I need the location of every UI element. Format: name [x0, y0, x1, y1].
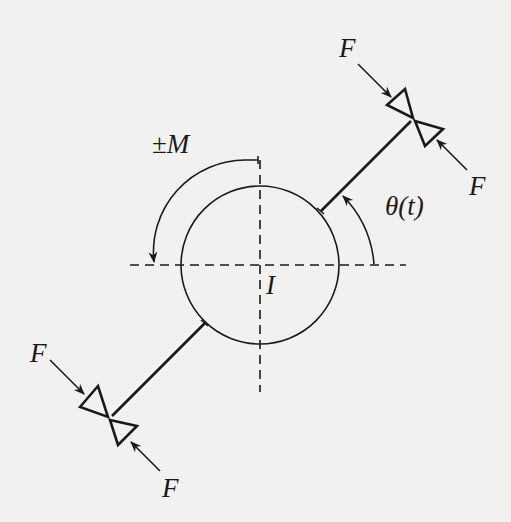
angle-arrow — [343, 196, 374, 264]
moment-label: ±M — [152, 129, 191, 159]
force-arrow-bottom-upper — [50, 360, 84, 394]
clamp-bottom-lower-jaw — [110, 420, 137, 445]
clamp-top-upper-jaw — [387, 89, 413, 118]
moment-arc — [153, 160, 258, 262]
inertia-label: I — [265, 270, 277, 300]
clamp-bottom — [80, 386, 137, 445]
force-label-top-upper: F — [338, 33, 356, 63]
force-label-top-lower: F — [468, 171, 486, 201]
angle-label: θ(t) — [385, 191, 424, 221]
arm — [112, 121, 411, 416]
moment-arrow — [153, 156, 258, 262]
force-label-bottom-upper: F — [29, 338, 47, 368]
force-arrow-top-lower — [437, 140, 467, 170]
force-arrow-top-upper — [358, 64, 391, 97]
clamp-bottom-upper-jaw — [80, 386, 108, 417]
force-arrows — [50, 64, 467, 471]
force-arrow-bottom-lower — [131, 442, 160, 471]
rotor-diagram: ±M I θ(t) F F F F — [0, 0, 511, 522]
arm-lower — [112, 323, 205, 416]
force-label-bottom-lower: F — [161, 473, 179, 503]
